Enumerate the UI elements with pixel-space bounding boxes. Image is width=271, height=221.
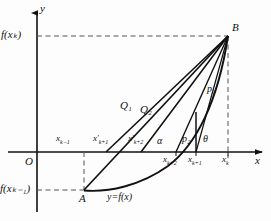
y-axis-label: y (40, 3, 45, 14)
y-value-label-fxk: f(xₖ) (1, 29, 21, 40)
y-value-label-fxk-1: f(xₖ₋₁) (0, 183, 30, 194)
math-diagram-figure: y x O f(xₖ) f(xₖ₋₁) B A p₁ p₂ Q₁ Q₂ α θ … (0, 0, 271, 221)
origin-label: O (25, 156, 33, 167)
curve-equation-label: y=f(x) (107, 192, 132, 202)
angle-label-theta: θ (203, 134, 208, 144)
tick-label-xk2: xk+2 (163, 155, 177, 167)
tick-label-xprime-k2: x′k+2 (128, 134, 143, 146)
point-label-Q2: Q₂ (140, 104, 152, 115)
point-label-Q1: Q₁ (120, 100, 132, 111)
tick-label-xprime-k1: x′k+1 (93, 134, 108, 146)
secant-B-xprime-k1 (106, 36, 228, 152)
point-label-A: A (79, 193, 86, 204)
point-label-p1: p₁ (207, 84, 215, 94)
angle-label-alpha: α (157, 136, 162, 146)
tick-label-xk1: xk+1 (188, 155, 202, 167)
point-label-p2: p₂ (182, 134, 190, 144)
diagram-canvas (0, 0, 271, 221)
tick-label-xk-1: xk−1 (56, 134, 70, 146)
tick-label-xk: xk (222, 155, 229, 167)
point-label-B: B (232, 22, 239, 33)
x-axis-label: x (255, 155, 260, 166)
